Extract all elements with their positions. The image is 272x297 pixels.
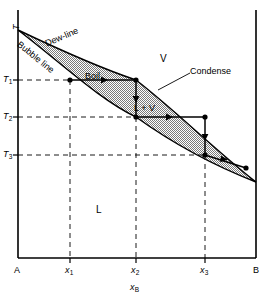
x-endpoint-label-a: A	[14, 266, 20, 275]
x-axis-title: xB	[130, 283, 139, 292]
point-dew-t1	[133, 77, 138, 82]
phase-diagram-figure: T T1 T2 T3 A B x1 x2 x3 xB Dew-line Bubb…	[0, 0, 272, 297]
x-endpoint-label-b: B	[253, 266, 259, 275]
two-phase-region-label: L + V	[134, 104, 155, 113]
point-bubble-t3	[202, 152, 207, 157]
point-bubble-t1	[67, 77, 72, 82]
y-tick-label-t2: T2	[3, 112, 12, 121]
point-bubble-t2	[133, 114, 138, 119]
condense-annotation-label: Condense	[190, 67, 231, 76]
point-dew-t2	[202, 114, 207, 119]
vapour-region-label: V	[160, 54, 167, 64]
x-tick-label-x3: x3	[200, 266, 208, 275]
x-tick-label-x2: x2	[131, 266, 139, 275]
y-tick-label-t1: T1	[3, 75, 12, 84]
liquid-region-label: L	[96, 205, 102, 215]
boil-annotation-label: Boil	[85, 72, 100, 81]
point-dew-t3	[243, 165, 248, 170]
y-tick-label-t3: T3	[3, 150, 12, 159]
x-tick-label-x1: x1	[65, 266, 73, 275]
phase-diagram-canvas	[0, 0, 272, 297]
y-axis-title: T	[12, 25, 21, 31]
